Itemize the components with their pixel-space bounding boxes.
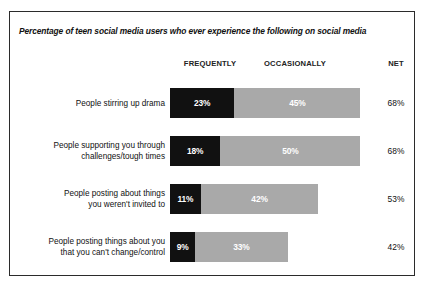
net-value: 68% [379,83,413,123]
net-value: 42% [379,227,413,267]
stacked-bar: 23% 45% [170,88,360,118]
stacked-bar: 18% 50% [170,136,360,166]
bar-value-frequently: 18% [187,146,203,156]
bar-segment-frequently: 23% [170,88,234,118]
column-header-net: NET [379,59,413,68]
chart-row: People posting things about you that you… [10,227,416,267]
chart-row: People stirring up drama 23% 45% 68% [10,83,416,123]
row-label-line: People posting things about you [48,236,165,247]
bar-value-occasionally: 42% [251,194,267,204]
bar-value-occasionally: 33% [233,242,249,252]
row-label-line: you weren't invited to [88,199,165,210]
bar-segment-frequently: 9% [170,232,195,262]
bar-value-occasionally: 50% [282,146,298,156]
row-label: People supporting you through challenges… [16,131,165,171]
chart-frame: Percentage of teen social media users wh… [9,11,415,276]
row-label: People posting about things you weren't … [16,179,165,219]
bar-segment-frequently: 11% [170,184,201,214]
bar-value-frequently: 23% [194,98,210,108]
bar-segment-frequently: 18% [170,136,220,166]
bar-segment-occasionally: 33% [195,232,287,262]
chart-row: People supporting you through challenges… [10,131,416,171]
stacked-bar: 9% 33% [170,232,288,262]
bar-segment-occasionally: 45% [234,88,360,118]
stacked-bar: 11% 42% [170,184,318,214]
bar-value-occasionally: 45% [289,98,305,108]
row-label: People stirring up drama [16,83,165,123]
bar-segment-occasionally: 50% [220,136,360,166]
row-label: People posting things about you that you… [16,227,165,267]
column-header-occasionally: OCCASIONALLY [258,59,332,68]
bar-segment-occasionally: 42% [201,184,319,214]
row-label-line: People stirring up drama [76,98,165,109]
column-header-frequently: FREQUENTLY [173,59,247,68]
bar-value-frequently: 9% [177,242,189,252]
row-label-line: that you can't change/control [61,247,165,258]
chart-row: People posting about things you weren't … [10,179,416,219]
row-label-line: People supporting you through [53,140,165,151]
chart-title: Percentage of teen social media users wh… [19,26,399,37]
row-label-line: People posting about things [64,188,165,199]
net-value: 53% [379,179,413,219]
row-label-line: challenges/tough times [81,151,165,162]
net-value: 68% [379,131,413,171]
bar-value-frequently: 11% [177,194,193,204]
